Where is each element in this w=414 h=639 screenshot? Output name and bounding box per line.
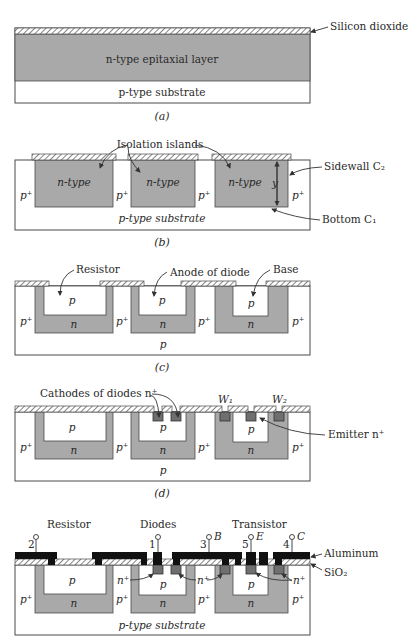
- n-label: n: [160, 597, 167, 609]
- collector-contact-nplus: [220, 412, 230, 421]
- aluminum-label: Aluminum: [323, 547, 379, 559]
- oxide-strip: [228, 406, 248, 412]
- terminal-num: 3: [200, 538, 207, 550]
- terminal-num: 1: [149, 538, 156, 550]
- p-label: p: [69, 421, 76, 433]
- pplus-label: p⁺: [20, 593, 32, 605]
- caption-d: (d): [154, 487, 170, 500]
- emitter-nplus: [246, 565, 256, 574]
- pplus-label: p⁺: [116, 441, 128, 453]
- n-label: n: [71, 597, 78, 609]
- n-label: n: [248, 318, 255, 330]
- terminal-5-emitter: 5 E: [242, 530, 264, 552]
- pplus-label: p⁺: [20, 189, 32, 201]
- pplus-label: p⁺: [116, 189, 128, 201]
- base-label: Base: [273, 263, 299, 275]
- substrate-p-label: p: [160, 464, 167, 476]
- aluminum-arrow: [311, 554, 322, 557]
- caption-c: (c): [155, 361, 170, 374]
- p-label: p: [248, 297, 255, 309]
- p-label: p: [160, 421, 167, 433]
- terminal-3-base: 3 B: [200, 530, 222, 552]
- caption-a: (a): [154, 110, 169, 123]
- panel-b: Isolation islands n-type n-type n-type p…: [15, 138, 385, 249]
- ntype-label: n-type: [228, 176, 261, 188]
- cathode-nplus: [171, 412, 181, 421]
- collector-nplus: [274, 565, 284, 574]
- ntype-label: n-type: [57, 176, 90, 188]
- panel-a: n-type epitaxial layer p-type substrate …: [15, 20, 408, 123]
- substrate-label: p-type substrate: [119, 212, 206, 224]
- nplus-label: n⁺: [117, 574, 129, 586]
- p-label: p: [159, 294, 166, 306]
- bottom-label: Bottom C₁: [322, 213, 376, 225]
- n-label: n: [71, 318, 78, 330]
- pplus-label: p⁺: [198, 441, 210, 453]
- oxide-strip: [282, 406, 310, 412]
- sio2-arrow: [311, 564, 322, 570]
- pplus-label: p⁺: [198, 189, 210, 201]
- panel-c: Resistor Anode of diode Base p p p n n n…: [15, 263, 310, 374]
- transistor-label: Transistor: [232, 518, 288, 530]
- oxide-arrow: [311, 27, 328, 32]
- pplus-label: p⁺: [292, 441, 304, 453]
- diodes-label: Diodes: [140, 518, 176, 530]
- emitter-nplus: [246, 412, 256, 421]
- w1-label: W₁: [218, 393, 233, 405]
- n-label: n: [71, 444, 78, 456]
- cathodes-label: Cathodes of diodes n⁺: [40, 387, 157, 399]
- oxide-strip: [32, 154, 116, 160]
- caption-b: (b): [154, 236, 170, 249]
- p-label: p: [69, 574, 76, 586]
- oxide-strip: [181, 281, 236, 286]
- cathode-nplus: [153, 565, 163, 574]
- epi-label: n-type epitaxial layer: [106, 53, 220, 65]
- islands-label: Isolation islands: [117, 138, 204, 150]
- oxide-strip: [15, 281, 49, 286]
- pplus-label: p⁺: [292, 189, 304, 201]
- substrate-label: p-type substrate: [119, 86, 206, 98]
- resistor-label: Resistor: [47, 518, 92, 530]
- pplus-label: p⁺: [292, 315, 304, 327]
- oxide-strip: [128, 154, 198, 160]
- panel-d: Cathodes of diodes n⁺ W₁ W₂ Emitter n⁺ p…: [15, 387, 384, 500]
- terminal-num: 2: [28, 538, 35, 550]
- anode-label: Anode of diode: [169, 266, 250, 278]
- terminal-4-collector: 4 C: [283, 530, 305, 552]
- ntype-label: n-type: [146, 176, 179, 188]
- w2-label: W₂: [272, 393, 287, 405]
- oxide-strip: [100, 281, 144, 286]
- ic-fabrication-diagram: n-type epitaxial layer p-type substrate …: [0, 0, 414, 639]
- oxide-strip: [266, 281, 310, 286]
- oxide-strip: [162, 406, 172, 412]
- cathode-nplus: [153, 412, 163, 421]
- p-label: p: [69, 294, 76, 306]
- emitter-label: Emitter n⁺: [328, 428, 384, 440]
- oxide-strip: [180, 406, 222, 412]
- oxide-strip: [15, 406, 154, 412]
- cathode-nplus: [171, 565, 181, 574]
- terminal-1: 1: [149, 535, 161, 553]
- pplus-label: p⁺: [116, 593, 128, 605]
- n-label: n: [248, 597, 255, 609]
- oxide-strip: [212, 154, 291, 160]
- substrate-p-label: p: [160, 338, 167, 350]
- terminal-name: B: [213, 530, 222, 542]
- depth-label: y: [271, 177, 279, 189]
- substrate-label: p-type substrate: [119, 619, 206, 631]
- terminal-2: 2: [28, 535, 39, 553]
- pplus-label: p⁺: [292, 593, 304, 605]
- pplus-label: p⁺: [198, 593, 210, 605]
- sidewall-label: Sidewall C₂: [324, 160, 385, 172]
- oxide-label: Silicon dioxide: [330, 20, 408, 32]
- collector-nplus: [220, 565, 230, 574]
- resistor-label: Resistor: [76, 263, 121, 275]
- p-label: p: [248, 423, 255, 435]
- terminal-name: C: [297, 530, 305, 542]
- n-label: n: [160, 444, 167, 456]
- n-label: n: [160, 318, 167, 330]
- p-label: p: [160, 578, 167, 590]
- terminal-num: 5: [242, 538, 249, 550]
- pplus-label: p⁺: [198, 315, 210, 327]
- collector-contact-nplus: [274, 412, 284, 421]
